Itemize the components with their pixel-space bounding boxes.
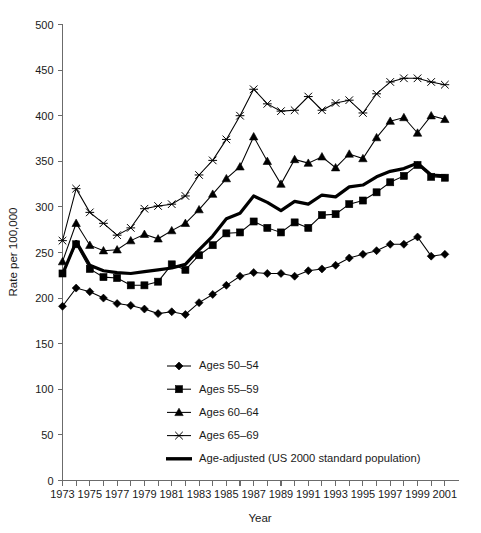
triangle-marker-icon	[263, 157, 271, 164]
triangle-marker-icon	[318, 153, 326, 160]
legend-item-5[interactable]: Age-adjusted (US 2000 standard populatio…	[166, 452, 421, 464]
diamond-marker-icon	[414, 233, 422, 241]
diamond-marker-icon	[304, 267, 312, 275]
star-marker-icon	[126, 224, 135, 232]
star-marker-icon	[181, 192, 190, 200]
star-marker-icon	[318, 106, 327, 114]
star-marker-icon	[359, 109, 368, 117]
y-tick-label: 450	[35, 64, 53, 76]
star-marker-icon	[175, 432, 184, 440]
square-marker-icon	[155, 278, 162, 285]
y-axis-title: Rate per 100,000	[7, 208, 19, 297]
square-marker-icon	[114, 275, 121, 282]
square-marker-icon	[127, 282, 134, 289]
star-marker-icon	[72, 185, 81, 193]
x-axis-ticks	[63, 481, 445, 486]
x-tick-label: 1987	[241, 488, 265, 500]
square-marker-icon	[209, 242, 216, 249]
triangle-marker-icon	[290, 155, 298, 162]
legend-item-3[interactable]: Ages 60–64	[167, 406, 259, 418]
square-marker-icon	[346, 201, 353, 208]
diamond-marker-icon	[263, 269, 271, 277]
x-axis-title: Year	[248, 512, 271, 524]
x-tick-label: 1995	[351, 488, 375, 500]
diamond-marker-icon	[277, 269, 285, 277]
triangle-marker-icon	[113, 246, 121, 253]
diamond-marker-icon	[168, 308, 176, 316]
x-tick-label: 1989	[269, 488, 293, 500]
square-marker-icon	[141, 282, 148, 289]
x-tick-label: 1991	[296, 488, 320, 500]
y-tick-label: 50	[41, 429, 53, 441]
chart-legend: Ages 50–54Ages 55–59Ages 60–64Ages 65–69…	[166, 359, 421, 464]
star-marker-icon	[167, 200, 176, 208]
square-marker-icon	[223, 230, 230, 237]
x-tick-label: 1975	[78, 488, 102, 500]
x-tick-label: 2001	[433, 488, 457, 500]
star-marker-icon	[208, 157, 217, 165]
square-marker-icon	[236, 229, 243, 236]
legend-item-1[interactable]: Ages 50–54	[167, 359, 259, 371]
square-marker-icon	[400, 172, 407, 179]
diamond-marker-icon	[222, 281, 230, 289]
star-marker-icon	[113, 231, 122, 239]
x-tick-label: 1997	[378, 488, 402, 500]
square-marker-icon	[277, 229, 284, 236]
diamond-marker-icon	[154, 310, 162, 318]
diamond-marker-icon	[427, 252, 435, 260]
star-marker-icon	[400, 75, 409, 83]
square-marker-icon	[264, 224, 271, 231]
triangle-marker-icon	[277, 180, 285, 187]
x-tick-label: 1999	[405, 488, 429, 500]
star-marker-icon	[427, 78, 436, 86]
x-tick-label: 1993	[323, 488, 347, 500]
x-tick-label: 1983	[187, 488, 211, 500]
line-chart-svg: 050100150200250300350400450500 197319751…	[0, 0, 481, 533]
square-marker-icon	[100, 274, 107, 281]
x-tick-label: 1977	[105, 488, 129, 500]
series-layer	[58, 75, 449, 319]
star-marker-icon	[99, 220, 108, 228]
triangle-marker-icon	[86, 241, 94, 248]
diamond-marker-icon	[175, 362, 183, 370]
y-axis-tick-labels: 050100150200250300350400450500	[35, 19, 53, 487]
star-marker-icon	[440, 81, 449, 89]
square-marker-icon	[387, 179, 394, 186]
star-marker-icon	[263, 100, 272, 108]
diamond-marker-icon	[359, 250, 367, 258]
y-tick-label: 300	[35, 201, 53, 213]
y-tick-label: 0	[47, 475, 53, 487]
x-axis-tick-labels: 1973197519771979198119831985198719891991…	[50, 488, 457, 500]
diamond-marker-icon	[332, 261, 340, 269]
triangle-marker-icon	[249, 132, 257, 139]
diamond-marker-icon	[441, 250, 449, 258]
star-marker-icon	[195, 171, 204, 179]
legend-item-label: Ages 65–69	[199, 429, 259, 441]
star-marker-icon	[413, 75, 422, 83]
square-marker-icon	[182, 266, 189, 273]
legend-item-label: Ages 60–64	[199, 406, 259, 418]
star-marker-icon	[372, 90, 381, 98]
star-marker-icon	[249, 85, 258, 93]
triangle-marker-icon	[400, 113, 408, 120]
star-marker-icon	[140, 205, 149, 213]
diamond-marker-icon	[113, 300, 121, 308]
triangle-marker-icon	[72, 219, 80, 226]
star-marker-icon	[222, 136, 231, 144]
diamond-marker-icon	[291, 272, 299, 280]
legend-item-2[interactable]: Ages 55–59	[167, 383, 259, 395]
legend-item-label: Age-adjusted (US 2000 standard populatio…	[199, 452, 421, 464]
square-marker-icon	[291, 219, 298, 226]
diamond-marker-icon	[140, 305, 148, 313]
series-line	[63, 78, 445, 240]
diamond-marker-icon	[86, 288, 94, 296]
diamond-marker-icon	[72, 284, 80, 292]
square-marker-icon	[359, 197, 366, 204]
triangle-marker-icon	[236, 163, 244, 170]
y-tick-label: 400	[35, 110, 53, 122]
diamond-marker-icon	[59, 302, 67, 310]
legend-item-label: Ages 55–59	[199, 383, 259, 395]
triangle-marker-icon	[168, 226, 176, 233]
legend-item-4[interactable]: Ages 65–69	[167, 429, 259, 441]
diamond-marker-icon	[318, 265, 326, 273]
